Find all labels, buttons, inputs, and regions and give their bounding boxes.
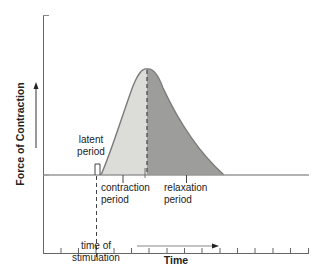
stimulation-label-line2: stimulation xyxy=(72,252,120,263)
y-arrow-head-icon xyxy=(34,82,39,89)
relaxation-label-line1: relaxation xyxy=(164,182,207,193)
x-axis-label: Time xyxy=(164,254,188,266)
time-arrow-head-icon xyxy=(212,244,219,249)
relaxation-area xyxy=(147,69,224,175)
contraction-label-line1: contraction xyxy=(101,182,150,193)
stimulation-label-line1: time of xyxy=(81,240,111,251)
contraction-label-line2: period xyxy=(101,194,129,205)
twitch-myogram-diagram: Force of Contraction latent period contr… xyxy=(0,0,328,277)
latent-label-line1: latent xyxy=(79,134,104,145)
latent-label-line2: period xyxy=(77,146,105,157)
relaxation-label-line2: period xyxy=(164,194,192,205)
y-axis-label: Force of Contraction xyxy=(14,82,26,185)
latent-period-bracket xyxy=(95,164,100,175)
